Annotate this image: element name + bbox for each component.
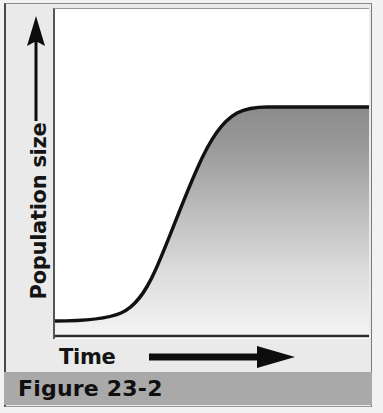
up-arrow-icon — [25, 16, 47, 121]
figure-caption-band: Figure 23-2 — [4, 372, 372, 405]
x-axis-label-row: Time — [53, 341, 369, 373]
y-axis-label: Population size — [27, 116, 51, 306]
figure-caption-text: Figure 23-2 — [18, 376, 163, 401]
right-arrow-icon — [149, 345, 295, 369]
plot-area — [53, 8, 369, 339]
figure-container: Population size — [0, 0, 383, 413]
x-axis-label: Time — [59, 345, 115, 369]
population-growth-curve — [55, 9, 369, 339]
figure-outer-frame: Population size — [4, 3, 372, 407]
